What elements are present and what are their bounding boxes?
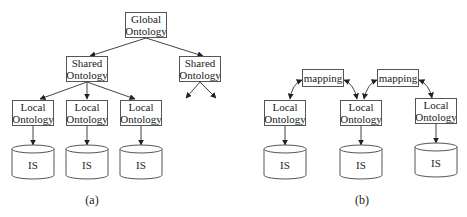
local-ontology-box-b2: Local Ontology	[340, 100, 382, 126]
is-label: IS	[66, 159, 108, 171]
local-ontology-box-a3: Local Ontology	[120, 100, 162, 126]
box-label: Local	[128, 101, 153, 113]
local-ontology-box-a1: Local Ontology	[12, 100, 54, 126]
box-label: Shared	[185, 57, 216, 69]
box-label: mapping	[379, 72, 418, 84]
local-ontology-box-b1: Local Ontology	[264, 100, 306, 126]
box-label: Ontology	[264, 113, 306, 125]
caption-a: (a)	[77, 193, 107, 208]
box-label: Ontology	[66, 69, 108, 81]
is-label: IS	[12, 159, 54, 171]
is-label: IS	[415, 157, 457, 169]
is-label: IS	[264, 159, 306, 171]
box-label: Ontology	[120, 113, 162, 125]
arrow-shared-to-local-3	[87, 82, 135, 99]
box-label: Ontology	[340, 113, 382, 125]
local-ontology-box-a2: Local Ontology	[66, 100, 108, 126]
global-ontology-box: Global Ontology	[125, 12, 167, 38]
box-label: Local	[20, 101, 45, 113]
arrow-global-to-shared-right	[146, 38, 203, 56]
box-label: Ontology	[125, 25, 167, 37]
box-label: Global	[131, 13, 161, 25]
arrow-mapping2-local2	[364, 80, 377, 99]
arrow-global-to-shared-left	[90, 38, 146, 56]
box-label: Local	[423, 99, 448, 111]
box-label: Local	[348, 101, 373, 113]
shared-ontology-box-right: Shared Ontology	[179, 56, 221, 82]
caption-b: (b)	[347, 193, 377, 208]
is-label: IS	[340, 159, 382, 171]
box-label: Shared	[72, 57, 103, 69]
is-label: IS	[120, 159, 162, 171]
mapping-box-2: mapping	[377, 69, 419, 87]
mapping-box-1: mapping	[302, 69, 344, 87]
arrow-shared-right-out-1	[186, 82, 200, 98]
box-label: Local	[272, 101, 297, 113]
box-label: mapping	[304, 72, 343, 84]
arrow-shared-to-local-1	[40, 82, 87, 99]
box-label: Ontology	[66, 113, 108, 125]
arrow-mapping1-local1	[290, 80, 302, 99]
box-label: Ontology	[12, 113, 54, 125]
arrow-mapping1-local2	[344, 80, 357, 99]
local-ontology-box-b3: Local Ontology	[415, 98, 457, 124]
arrow-mapping2-local3	[419, 80, 432, 98]
box-label: Ontology	[179, 69, 221, 81]
arrow-shared-right-out-2	[200, 82, 216, 98]
box-label: Local	[74, 101, 99, 113]
box-label: Ontology	[415, 111, 457, 123]
shared-ontology-box-left: Shared Ontology	[66, 56, 108, 82]
